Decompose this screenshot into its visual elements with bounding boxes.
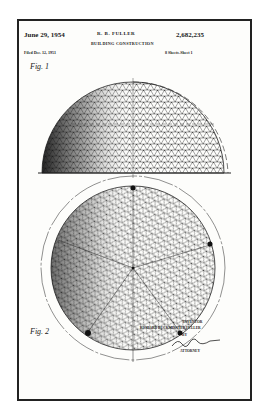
- figure-2-sphere: [41, 176, 225, 362]
- figure-1-dome: [38, 78, 231, 178]
- attorney-signature: [172, 339, 220, 347]
- patent-figures: [0, 0, 265, 416]
